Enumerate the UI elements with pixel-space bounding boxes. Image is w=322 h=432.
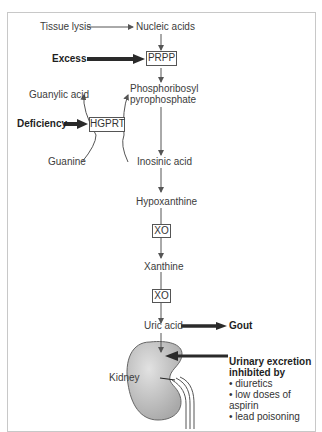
node-guanine: Guanine (48, 156, 86, 167)
inhibitor-item: diuretics (229, 378, 322, 389)
node-phosphoribosyl-pyrophosphate: Phosphoribosyl pyrophosphate (130, 83, 194, 105)
node-guanylic-acid: Guanylic acid (29, 89, 89, 100)
inhibitor-list: diuretics low doses of aspirin lead pois… (229, 378, 322, 422)
node-xo-2: XO (152, 289, 171, 303)
node-xanthine: Xanthine (144, 261, 183, 272)
note-heading-line1: Urinary excretion (229, 356, 322, 367)
node-prpp: PRPP (146, 51, 177, 66)
note-heading-line2: inhibited by (229, 367, 322, 378)
node-xo-1: XO (152, 224, 171, 238)
inhibitor-item: low doses of aspirin (229, 389, 322, 411)
phosphoribosyl-line1: Phosphoribosyl (130, 83, 198, 94)
node-inosinic-acid: Inosinic acid (137, 156, 192, 167)
inhibitor-item: lead poisoning (229, 411, 322, 422)
node-tissue-lysis: Tissue lysis (40, 21, 91, 32)
node-gout: Gout (229, 320, 252, 331)
phosphoribosyl-line2: pyrophosphate (130, 94, 196, 105)
node-uric-acid: Uric acid (144, 320, 183, 331)
urinary-excretion-note: Urinary excretion inhibited by diuretics… (229, 356, 322, 422)
node-hgprt: HGPRT (89, 117, 125, 132)
label-deficiency: Deficiency (17, 118, 67, 129)
node-nucleic-acids: Nucleic acids (136, 21, 195, 32)
label-kidney: Kidney (109, 372, 140, 383)
label-excess: Excess (52, 53, 86, 64)
node-hypoxanthine: Hypoxanthine (136, 196, 197, 207)
